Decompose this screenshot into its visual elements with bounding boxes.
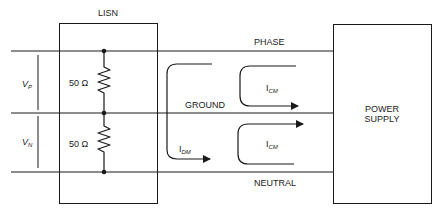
vp-sub: P bbox=[28, 84, 32, 90]
idm-label: IDM bbox=[179, 144, 191, 157]
power-supply-line1: POWER bbox=[354, 104, 410, 114]
power-supply-line2: SUPPLY bbox=[354, 114, 410, 124]
idm-sub: DM bbox=[182, 149, 191, 155]
phase-label: PHASE bbox=[254, 37, 285, 47]
lisn-label: LISN bbox=[98, 8, 118, 18]
power-supply-label: POWER SUPPLY bbox=[354, 104, 410, 124]
icm-top-sub: CM bbox=[269, 88, 278, 94]
icm-bottom-label: ICM bbox=[266, 139, 278, 152]
resistor-top-icon bbox=[98, 51, 110, 113]
vp-label: VP bbox=[22, 79, 32, 92]
neutral-label: NEUTRAL bbox=[254, 178, 296, 188]
vn-label: VN bbox=[22, 137, 32, 150]
vn-sub: N bbox=[28, 142, 32, 148]
icm-top-label: ICM bbox=[266, 83, 278, 96]
resistor-top-value: 50 Ω bbox=[69, 78, 88, 88]
ground-label: GROUND bbox=[185, 100, 225, 110]
icm-bottom-sub: CM bbox=[269, 144, 278, 150]
resistor-bottom-icon bbox=[98, 113, 110, 172]
resistor-bottom-value: 50 Ω bbox=[69, 139, 88, 149]
